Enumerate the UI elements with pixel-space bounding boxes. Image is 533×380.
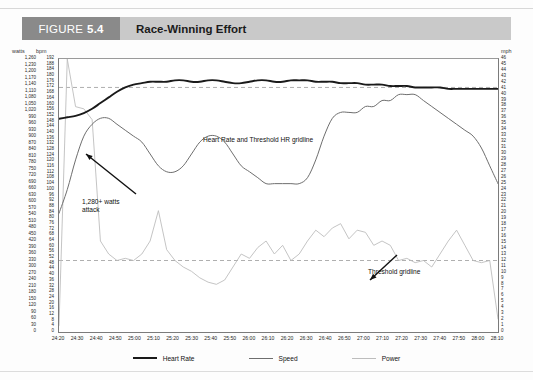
figure-number: 5.4 [87,23,104,35]
figure-word: FIGURE [38,23,83,35]
tick-label-mph: 31 [501,145,506,150]
axis-unit-watts: watts [12,48,25,54]
tick-label-watts: 930 [28,127,36,132]
tick-label-mph: 28 [501,163,506,168]
tick-label-watts: 1,050 [25,101,36,106]
tick-label-watts: 150 [28,296,36,301]
tick-label-mph: 24 [501,186,506,191]
top-divider [0,8,533,9]
tick-label-watts: 720 [28,173,36,178]
tick-label-mph: 11 [501,263,506,268]
tick-label-watts: 240 [28,277,36,282]
legend-item-speed: Speed [249,355,298,362]
tick-label-watts: 0 [33,329,36,334]
tick-label-time: 26:10 [262,335,275,341]
tick-label-mph: 43 [501,74,506,79]
tick-label-mph: 44 [501,68,506,73]
tick-label-watts: 1,020 [25,108,36,113]
tick-label-mph: 32 [501,139,506,144]
tick-label-mph: 33 [501,133,506,138]
series-canvas [59,59,498,332]
tick-label-watts: 330 [28,257,36,262]
tick-label-time: 26:50 [338,335,351,341]
axis-ticks-time: 24:2024:3024:4024:5025:0025:1025:2025:30… [58,335,497,347]
annotation-attack-line2: attack [82,206,120,214]
tick-label-watts: 690 [28,179,36,184]
annotation-threshold: Threshold gridline [368,268,420,276]
tick-label-time: 24:50 [109,335,122,341]
tick-label-watts: 480 [28,225,36,230]
legend-label-heart-rate: Heart Rate [163,355,195,362]
tick-label-mph: 0 [501,329,504,334]
tick-label-time: 24:20 [52,335,65,341]
tick-label-watts: 750 [28,166,36,171]
legend-label-power: Power [382,355,401,362]
tick-label-mph: 26 [501,174,506,179]
tick-label-watts: 1,110 [25,88,36,93]
figure-header-band: FIGURE 5.4 Race-Winning Effort [22,17,511,40]
tick-label-mph: 30 [501,151,506,156]
tick-label-watts: 960 [28,121,36,126]
tick-label-mph: 37 [501,109,506,114]
tick-label-watts: 420 [28,238,36,243]
tick-label-watts: 1,230 [25,62,36,67]
tick-label-watts: 870 [28,140,36,145]
tick-label-watts: 390 [28,244,36,249]
tick-label-mph: 35 [501,121,506,126]
tick-label-time: 25:50 [223,335,236,341]
tick-label-watts: 270 [28,270,36,275]
tick-label-watts: 510 [28,218,36,223]
tick-label-mph: 41 [501,85,506,90]
tick-label-watts: 210 [28,283,36,288]
tick-label-mph: 27 [501,169,506,174]
arrow-attack [86,154,136,194]
bottom-divider [0,371,533,372]
tick-label-time: 26:30 [300,335,313,341]
tick-label-bpm: 0 [51,329,54,334]
axis-ticks-watts: 1,2601,2301,2001,1701,1401,1101,0801,050… [10,58,36,331]
tick-label-mph: 5 [501,299,504,304]
tick-label-mph: 18 [501,222,506,227]
tick-label-watts: 1,140 [25,82,36,87]
tick-label-watts: 540 [28,212,36,217]
axis-unit-mph: mph [501,48,512,54]
tick-label-mph: 12 [501,258,506,263]
legend-swatch-speed [249,358,273,359]
tick-label-mph: 4 [501,305,504,310]
tick-label-watts: 1,260 [25,56,36,61]
tick-label-time: 28:10 [491,335,504,341]
tick-label-watts: 570 [28,205,36,210]
tick-label-mph: 16 [501,234,506,239]
tick-label-mph: 38 [501,103,506,108]
tick-label-time: 25:00 [128,335,141,341]
chart-container: watts bpm mph 1,2601,2301,2001,1701,1401… [10,46,525,346]
tick-label-time: 25:30 [185,335,198,341]
annotation-heart-rate: Heart Rate and Threshold HR gridline [203,136,313,144]
tick-label-mph: 23 [501,192,506,197]
annotation-attack: 1,280+ watts attack [82,198,120,214]
tick-label-time: 25:40 [204,335,217,341]
tick-label-mph: 40 [501,91,506,96]
tick-label-mph: 42 [501,79,506,84]
plot-area [58,58,499,333]
tick-label-watts: 60 [31,316,36,321]
tick-label-watts: 180 [28,290,36,295]
legend-swatch-heart-rate [133,357,157,359]
annotation-attack-line1: 1,280+ watts [82,198,120,206]
tick-label-mph: 20 [501,210,506,215]
tick-label-time: 27:00 [357,335,370,341]
axis-ticks-mph: 4645444342414039383736353433323130292827… [501,58,521,331]
tick-label-watts: 1,170 [25,75,36,80]
tick-label-mph: 13 [501,252,506,257]
tick-label-watts: 990 [28,114,36,119]
tick-label-watts: 600 [28,199,36,204]
chart-legend: Heart Rate Speed Power [0,350,533,366]
legend-swatch-power [352,358,376,359]
tick-label-mph: 3 [501,311,504,316]
tick-label-watts: 810 [28,153,36,158]
tick-label-time: 27:10 [376,335,389,341]
figure-page: FIGURE 5.4 Race-Winning Effort watts bpm… [0,0,533,380]
tick-label-time: 24:30 [71,335,84,341]
tick-label-mph: 17 [501,228,506,233]
tick-label-time: 27:20 [395,335,408,341]
